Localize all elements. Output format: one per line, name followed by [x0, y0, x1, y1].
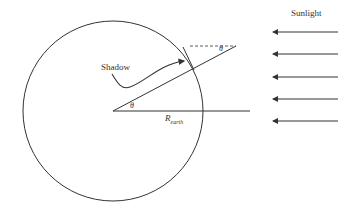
- earth-radius-subscript: earth: [171, 119, 184, 125]
- theta-center-label: θ: [130, 101, 134, 110]
- sunlight-arrows: [273, 32, 338, 121]
- theta-top-label: θ: [219, 44, 223, 53]
- earth-shadow-diagram: Sunlight Shadow θ θ Rearth: [0, 0, 356, 210]
- shadow-label: Shadow: [101, 62, 130, 72]
- diagram-canvas: [0, 0, 356, 210]
- sunlight-label: Sunlight: [291, 8, 322, 18]
- earth-radius-label: Rearth: [165, 113, 183, 125]
- shadow-edge-line: [183, 47, 194, 70]
